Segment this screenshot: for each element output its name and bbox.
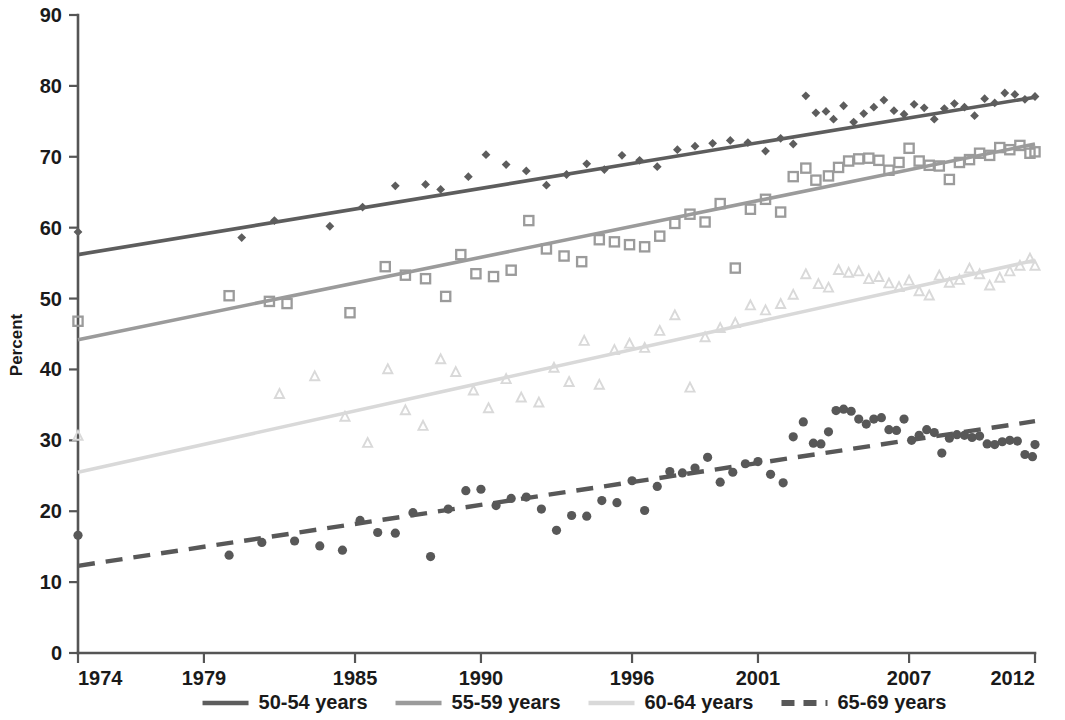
data-point bbox=[237, 233, 246, 242]
data-point bbox=[801, 269, 810, 278]
y-tick-label: 50 bbox=[40, 288, 62, 310]
data-point bbox=[580, 336, 589, 345]
legend-item[interactable]: 60-64 years bbox=[589, 691, 754, 713]
data-point bbox=[824, 283, 833, 292]
y-tick-label: 20 bbox=[40, 500, 62, 522]
data-point bbox=[920, 103, 929, 112]
data-point bbox=[746, 300, 755, 309]
data-point bbox=[552, 526, 561, 535]
data-point bbox=[892, 426, 901, 435]
y-tick-label: 70 bbox=[40, 146, 62, 168]
data-point bbox=[534, 398, 543, 407]
data-point bbox=[869, 103, 878, 112]
data-point bbox=[451, 367, 460, 376]
data-point bbox=[801, 91, 810, 100]
legend-item[interactable]: 55-59 years bbox=[396, 691, 561, 713]
data-point bbox=[937, 448, 946, 457]
data-point bbox=[345, 308, 354, 317]
data-point bbox=[864, 274, 873, 283]
data-point bbox=[975, 431, 984, 440]
data-point bbox=[502, 160, 511, 169]
data-point bbox=[995, 273, 1004, 282]
data-point bbox=[801, 164, 810, 173]
series-55-59-years bbox=[73, 141, 1039, 340]
data-point bbox=[877, 413, 886, 422]
data-point bbox=[776, 207, 785, 216]
data-point bbox=[910, 100, 919, 109]
data-point bbox=[864, 154, 873, 163]
data-point bbox=[980, 94, 989, 103]
legend-label: 65-69 years bbox=[837, 691, 946, 713]
data-point bbox=[761, 147, 770, 156]
data-point bbox=[610, 237, 619, 246]
y-tick-label: 80 bbox=[40, 75, 62, 97]
data-point bbox=[1028, 452, 1037, 461]
data-point bbox=[522, 167, 531, 176]
data-point bbox=[1000, 89, 1009, 98]
scatter-points bbox=[73, 405, 1039, 562]
data-point bbox=[789, 432, 798, 441]
x-tick-label: 1996 bbox=[610, 667, 655, 689]
data-point bbox=[464, 172, 473, 181]
data-point bbox=[655, 232, 664, 241]
data-point bbox=[824, 427, 833, 436]
chart-legend: 50-54 years55-59 years60-64 years65-69 y… bbox=[203, 691, 947, 713]
data-point bbox=[965, 264, 974, 273]
y-tick-label: 30 bbox=[40, 429, 62, 451]
data-point bbox=[894, 158, 903, 167]
y-axis-label: Percent bbox=[7, 313, 26, 376]
data-point bbox=[640, 242, 649, 251]
data-point bbox=[811, 108, 820, 117]
data-point bbox=[559, 251, 568, 260]
data-point bbox=[829, 115, 838, 124]
data-point bbox=[381, 262, 390, 271]
data-point bbox=[859, 109, 868, 118]
data-point bbox=[290, 536, 299, 545]
x-tick-label: 1985 bbox=[333, 667, 378, 689]
data-point bbox=[391, 181, 400, 190]
data-point bbox=[418, 421, 427, 430]
data-point bbox=[799, 417, 808, 426]
data-point bbox=[789, 172, 798, 181]
data-point bbox=[776, 299, 785, 308]
data-point bbox=[363, 438, 372, 447]
data-point bbox=[524, 216, 533, 225]
data-point bbox=[653, 162, 662, 171]
data-point bbox=[678, 468, 687, 477]
data-point bbox=[884, 278, 893, 287]
data-point bbox=[373, 528, 382, 537]
x-tick-label: 2012 bbox=[991, 667, 1036, 689]
data-point bbox=[441, 292, 450, 301]
data-point bbox=[789, 290, 798, 299]
data-point bbox=[691, 142, 700, 151]
trend-line bbox=[78, 260, 1035, 472]
data-point bbox=[421, 274, 430, 283]
data-point bbox=[670, 310, 679, 319]
legend-item[interactable]: 65-69 years bbox=[781, 691, 946, 713]
data-point bbox=[275, 389, 284, 398]
data-point bbox=[421, 180, 430, 189]
data-point bbox=[854, 414, 863, 423]
y-tick-label: 0 bbox=[51, 642, 62, 664]
data-point bbox=[597, 496, 606, 505]
data-point bbox=[685, 383, 694, 392]
data-series-group bbox=[73, 89, 1039, 566]
data-point bbox=[703, 453, 712, 462]
legend-item[interactable]: 50-54 years bbox=[203, 691, 368, 713]
data-point bbox=[471, 269, 480, 278]
data-point bbox=[1010, 90, 1019, 99]
data-point bbox=[834, 163, 843, 172]
data-point bbox=[476, 485, 485, 494]
data-point bbox=[854, 154, 863, 163]
legend-label: 55-59 years bbox=[452, 691, 561, 713]
data-point bbox=[73, 531, 82, 540]
data-point bbox=[653, 482, 662, 491]
data-point bbox=[874, 272, 883, 281]
data-point bbox=[315, 541, 324, 550]
trend-line bbox=[78, 421, 1035, 566]
data-point bbox=[565, 377, 574, 386]
data-point bbox=[595, 380, 604, 389]
data-point bbox=[814, 279, 823, 288]
data-point bbox=[726, 136, 735, 145]
data-point bbox=[456, 250, 465, 259]
